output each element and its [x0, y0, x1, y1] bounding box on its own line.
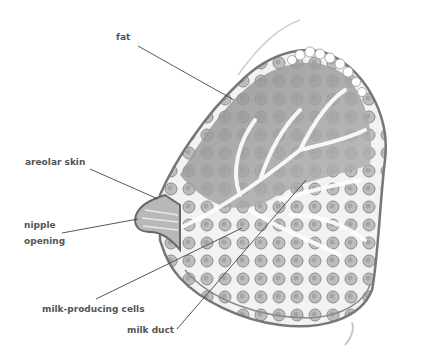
- breast-body: [160, 47, 386, 326]
- skin-fold: [345, 322, 353, 345]
- label-areolar-skin: areolar skin: [25, 158, 85, 167]
- label-milk-duct: milk duct: [127, 326, 174, 335]
- label-fat: fat: [116, 33, 130, 42]
- label-nipple: nipple: [24, 221, 56, 230]
- leader-nipple-opening: [62, 219, 138, 233]
- label-milk-producing-cells: milk-producing cells: [42, 305, 145, 314]
- breast-anatomy-diagram: fat areolar skin nipple opening milk-pro…: [0, 0, 425, 362]
- leader-fat: [138, 46, 234, 100]
- label-opening: opening: [24, 237, 65, 246]
- nipple-shape: [135, 195, 180, 250]
- leader-areolar-skin: [90, 169, 158, 199]
